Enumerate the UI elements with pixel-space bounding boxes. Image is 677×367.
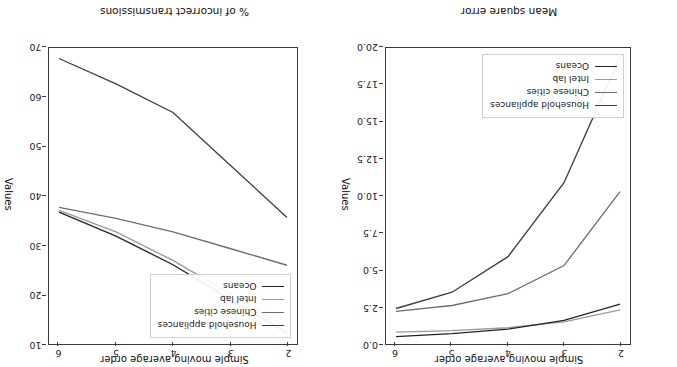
y-axis-tick-mark	[43, 344, 47, 345]
legend-item[interactable]: Intel lab	[490, 73, 617, 86]
plot-area-right: Household appliancesChinese citiesIntel …	[49, 47, 299, 345]
y-axis-tick-label: 0.0	[363, 341, 378, 351]
x-axis-tick-mark	[115, 342, 116, 346]
y-axis-tick-mark	[379, 46, 383, 47]
x-axis-tick-label: 3	[228, 349, 234, 359]
y-axis-tick-label: 5.0	[363, 266, 378, 276]
legend-right: Household appliancesChinese citiesIntel …	[150, 274, 292, 338]
legend-item-label: Intel lab	[220, 295, 257, 305]
panel-title-right: % of incorrect transmissions	[51, 6, 299, 18]
y-axis-tick-label: 10	[29, 341, 41, 351]
y-axis-tick-mark	[43, 245, 47, 246]
y-axis-tick-mark	[43, 295, 47, 296]
y-axis-tick-label: 2.5	[363, 303, 378, 313]
y-axis-tick-label: 15.0	[357, 117, 378, 127]
chart-panel-mean-square-error: Simple moving average order Household ap…	[339, 0, 677, 367]
series-line	[396, 192, 620, 312]
x-axis-tick-label: 3	[561, 349, 567, 359]
series-line	[60, 59, 288, 218]
legend-item-label: Oceans	[223, 282, 256, 292]
legend-color-swatch	[595, 92, 617, 93]
y-axis-tick-mark	[43, 96, 47, 97]
y-axis-tick-mark	[379, 121, 383, 122]
x-axis-tick-mark	[173, 342, 174, 346]
legend-item[interactable]: Chinese cities	[158, 306, 285, 319]
legend-color-swatch	[595, 79, 617, 80]
legend-item[interactable]: Household appliances	[158, 319, 285, 332]
legend-item-label: Intel lab	[552, 75, 589, 85]
x-axis-tick-mark	[451, 342, 452, 346]
y-axis-tick-label: 60	[29, 92, 41, 102]
y-axis-tick-label: 40	[29, 192, 41, 202]
legend-color-swatch	[263, 312, 285, 313]
legend-color-swatch	[263, 299, 285, 300]
x-axis-tick-label: 4	[505, 349, 511, 359]
y-axis-tick-label: 20	[29, 291, 41, 301]
x-axis-tick-mark	[230, 342, 231, 346]
legend-item[interactable]: Household appliances	[490, 99, 617, 112]
x-axis-tick-mark	[394, 342, 395, 346]
x-axis-tick-mark	[507, 342, 508, 346]
y-axis-tick-mark	[379, 158, 383, 159]
legend-item-label: Chinese cities	[194, 308, 257, 318]
legend-item-label: Oceans	[556, 62, 589, 72]
y-axis-tick-label: 12.5	[357, 154, 378, 164]
legend-item[interactable]: Chinese cities	[490, 86, 617, 99]
x-axis-tick-label: 6	[392, 349, 398, 359]
x-axis-tick-label: 2	[285, 349, 291, 359]
plot-area-left: Household appliancesChinese citiesIntel …	[385, 47, 631, 345]
y-axis-tick-mark	[379, 270, 383, 271]
y-axis-tick-label: 50	[29, 142, 41, 152]
y-axis-tick-mark	[379, 233, 383, 234]
y-axis-tick-mark	[379, 195, 383, 196]
legend-item-label: Household appliances	[490, 101, 589, 111]
rotated-figure: Simple moving average order Household ap…	[0, 0, 677, 367]
chart-panel-incorrect-transmissions: Simple moving average order Household ap…	[0, 0, 339, 367]
legend-color-swatch	[595, 66, 617, 67]
y-axis-title-right: Values	[4, 178, 15, 211]
legend-item[interactable]: Oceans	[490, 60, 617, 73]
panel-title-left: Mean square error	[387, 6, 631, 18]
y-axis-tick-mark	[43, 146, 47, 147]
y-axis-tick-label: 10.0	[357, 192, 378, 202]
y-axis-tick-label: 7.5	[363, 229, 378, 239]
legend-item[interactable]: Intel lab	[158, 293, 285, 306]
legend-color-swatch	[263, 286, 285, 287]
legend-color-swatch	[263, 325, 285, 326]
x-axis-tick-mark	[620, 342, 621, 346]
y-axis-title-left: Values	[340, 178, 351, 211]
y-axis-tick-label: 17.5	[357, 80, 378, 90]
x-axis-tick-label: 4	[170, 349, 176, 359]
series-line	[60, 207, 288, 265]
y-axis-tick-label: 30	[29, 241, 41, 251]
legend-left: Household appliancesChinese citiesIntel …	[482, 54, 624, 118]
y-axis-tick-mark	[379, 344, 383, 345]
x-axis-tick-label: 6	[55, 349, 61, 359]
x-axis-tick-mark	[288, 342, 289, 346]
y-axis-tick-label: 20.0	[357, 43, 378, 53]
legend-item[interactable]: Oceans	[158, 280, 285, 293]
legend-color-swatch	[595, 105, 617, 106]
y-axis-tick-mark	[43, 46, 47, 47]
y-axis-tick-label: 70	[29, 43, 41, 53]
y-axis-tick-mark	[379, 307, 383, 308]
y-axis-tick-mark	[43, 195, 47, 196]
x-axis-tick-label: 5	[113, 349, 119, 359]
x-axis-tick-label: 5	[448, 349, 454, 359]
figure-canvas: Simple moving average order Household ap…	[0, 0, 677, 367]
y-axis-tick-mark	[379, 84, 383, 85]
legend-item-label: Household appliances	[158, 321, 257, 331]
x-axis-tick-label: 2	[618, 349, 624, 359]
x-axis-tick-mark	[564, 342, 565, 346]
x-axis-tick-mark	[58, 342, 59, 346]
legend-item-label: Chinese cities	[526, 88, 589, 98]
